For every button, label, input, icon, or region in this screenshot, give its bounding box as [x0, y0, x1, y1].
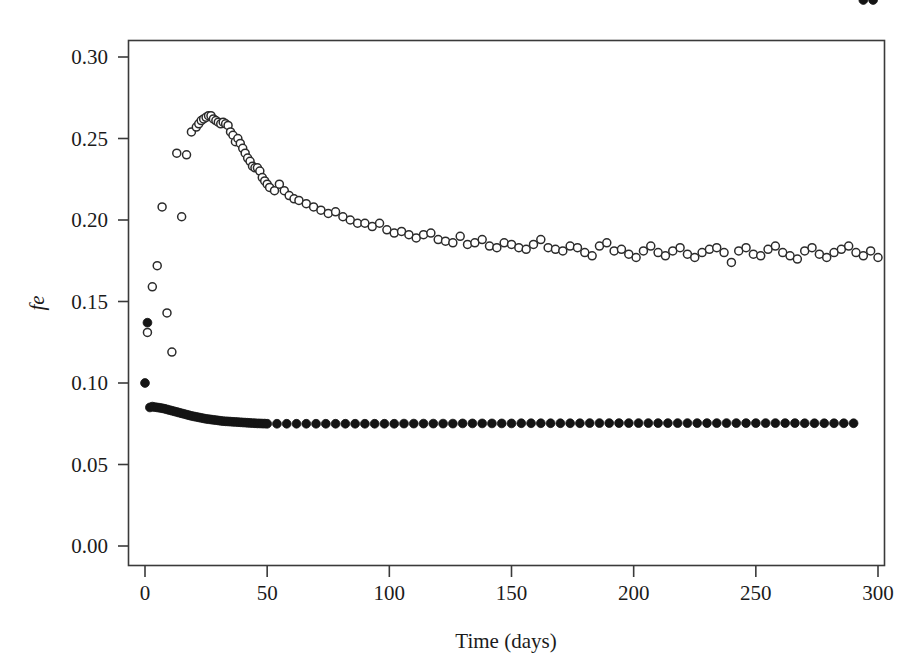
data-point-open	[727, 258, 735, 266]
data-point-open	[617, 245, 625, 253]
data-point-filled	[751, 419, 760, 428]
figure-container: 0.000.050.100.150.200.250.30 05010015020…	[0, 0, 922, 665]
data-point-filled	[703, 419, 712, 428]
data-point-filled	[800, 419, 809, 428]
data-point-open	[691, 253, 699, 261]
data-point-open	[376, 219, 384, 227]
data-point-filled	[712, 419, 721, 428]
data-point-filled	[722, 419, 731, 428]
data-point-open	[639, 247, 647, 255]
x-axis-title: Time (days)	[455, 629, 556, 653]
data-point-filled	[742, 419, 751, 428]
y-axis-title: fe	[25, 295, 49, 310]
data-point-filled	[595, 419, 604, 428]
data-point-filled	[429, 419, 438, 428]
data-point-filled	[839, 419, 848, 428]
x-tick-label: 150	[496, 581, 528, 605]
data-point-filled	[556, 419, 565, 428]
data-point-filled	[615, 419, 624, 428]
y-tick-label: 0.10	[71, 371, 108, 395]
data-point-filled	[654, 419, 663, 428]
data-point-filled	[673, 419, 682, 428]
data-point-open	[573, 244, 581, 252]
data-point-filled	[761, 419, 770, 428]
scatter-plot: 0.000.050.100.150.200.250.30 05010015020…	[0, 0, 922, 665]
data-point-filled	[361, 419, 370, 428]
x-tick-label: 250	[740, 581, 772, 605]
data-point-filled	[585, 419, 594, 428]
data-point-filled	[321, 419, 330, 428]
data-point-open	[559, 247, 567, 255]
data-point-filled	[605, 419, 614, 428]
data-point-open	[529, 240, 537, 248]
data-point-filled	[527, 419, 536, 428]
data-point-filled	[439, 419, 448, 428]
x-tick-label: 300	[862, 581, 894, 605]
data-point-open	[456, 232, 464, 240]
data-point-filled	[624, 419, 633, 428]
data-point-open	[720, 249, 728, 257]
data-point-open	[153, 262, 161, 270]
data-point-open	[845, 242, 853, 250]
data-point-open	[867, 247, 875, 255]
data-point-filled	[566, 419, 575, 428]
data-point-open	[632, 253, 640, 261]
data-point-filled	[263, 419, 272, 428]
data-point-open	[793, 255, 801, 263]
data-point-filled	[517, 419, 526, 428]
y-tick-label: 0.30	[71, 45, 108, 69]
data-point-filled	[771, 419, 780, 428]
data-point-filled	[331, 419, 340, 428]
data-point-open	[823, 253, 831, 261]
data-point-filled	[732, 419, 741, 428]
x-tick-label: 100	[374, 581, 406, 605]
data-point-filled	[141, 379, 150, 388]
y-tick-label: 0.15	[71, 290, 108, 314]
data-point-open	[178, 213, 186, 221]
data-point-filled	[458, 419, 467, 428]
data-point-open	[874, 253, 882, 261]
y-tick-label: 0.25	[71, 127, 108, 151]
data-point-filled	[400, 419, 409, 428]
data-point-filled	[546, 419, 555, 428]
data-point-filled	[448, 419, 457, 428]
data-point-open	[661, 252, 669, 260]
x-tick-label: 50	[257, 581, 278, 605]
data-point-filled	[282, 419, 291, 428]
data-point-open	[449, 239, 457, 247]
data-point-open	[588, 252, 596, 260]
data-point-filled	[302, 419, 311, 428]
data-point-filled	[507, 419, 516, 428]
data-point-open	[771, 242, 779, 250]
data-point-filled	[488, 419, 497, 428]
data-point-filled	[663, 419, 672, 428]
data-point-filled	[644, 419, 653, 428]
data-point-filled	[380, 419, 389, 428]
data-point-filled	[497, 419, 506, 428]
y-tick-label: 0.05	[71, 453, 108, 477]
data-point-open	[757, 252, 765, 260]
data-point-filled	[390, 419, 399, 428]
x-tick-label: 0	[140, 581, 151, 605]
data-point-filled	[683, 419, 692, 428]
data-point-open	[522, 245, 530, 253]
data-point-open	[158, 203, 166, 211]
data-point-filled	[781, 419, 790, 428]
data-point-filled	[536, 419, 545, 428]
data-point-open	[808, 244, 816, 252]
data-point-open	[742, 244, 750, 252]
data-point-open	[148, 283, 156, 291]
data-point-open	[676, 244, 684, 252]
data-point-filled	[409, 419, 418, 428]
data-point-open	[537, 236, 545, 244]
data-point-filled	[478, 419, 487, 428]
data-point-filled	[292, 419, 301, 428]
data-point-open	[183, 151, 191, 159]
data-point-open	[332, 208, 340, 216]
data-point-filled	[273, 419, 282, 428]
data-point-filled	[791, 419, 800, 428]
data-point-filled	[576, 419, 585, 428]
data-point-filled	[143, 318, 152, 327]
data-point-filled	[634, 419, 643, 428]
data-point-open	[173, 149, 181, 157]
